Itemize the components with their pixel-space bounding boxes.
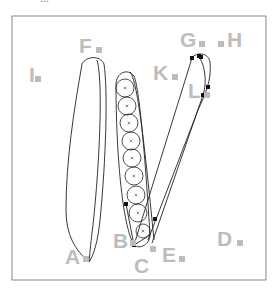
pod-inner-line (130, 72, 154, 240)
circle-center-cross-icon (130, 140, 133, 143)
label-e: E (162, 243, 176, 266)
label-k-marker (172, 74, 178, 80)
circle-center-cross-icon (124, 87, 127, 90)
label-b: B (113, 229, 128, 252)
circle-center-cross-icon (126, 105, 129, 108)
label-g: G (180, 28, 196, 51)
label-b-marker (130, 240, 136, 246)
control-point-1 (124, 202, 128, 206)
label-g-marker (199, 41, 205, 47)
label-e-marker (179, 256, 185, 262)
circle-center-cross-icon (128, 122, 131, 125)
label-h-marker (218, 41, 224, 47)
circle-center-cross-icon (131, 157, 134, 160)
label-k: K (153, 61, 168, 84)
circle-center-cross-icon (133, 175, 136, 178)
label-f: F (79, 34, 92, 57)
label-c-marker (150, 246, 156, 252)
label-c: C (134, 254, 149, 277)
circle-center-cross-icon (135, 194, 138, 197)
label-d-marker (237, 240, 243, 246)
label-l: L (188, 79, 201, 102)
label-a: A (65, 245, 80, 268)
diagram-canvas: ABCDEFGHIKL (0, 0, 275, 289)
label-i: I (29, 63, 35, 86)
label-i-marker (35, 76, 41, 82)
control-point-4 (190, 56, 194, 60)
label-a-marker (83, 256, 89, 262)
label-l-marker (204, 92, 210, 98)
label-h: H (227, 28, 242, 51)
label-d: D (217, 227, 232, 250)
circle-center-cross-icon (142, 230, 145, 233)
circle-center-cross-icon (137, 212, 140, 215)
control-point-6 (199, 55, 203, 59)
label-f-marker (96, 47, 102, 53)
control-point-3 (153, 217, 157, 221)
control-point-7 (206, 85, 210, 89)
